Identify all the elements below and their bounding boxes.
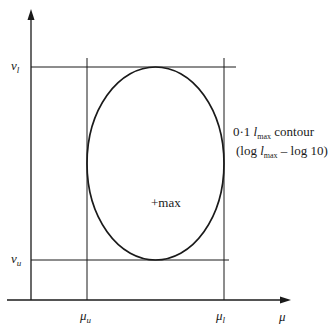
- contour-annotation-line2: (log lmax – log 10): [231, 142, 328, 161]
- max-point-label: +max: [151, 196, 181, 209]
- v-u-label: vu: [11, 252, 21, 265]
- y-axis-arrow-icon: [28, 9, 35, 20]
- mu-u-label: μu: [80, 309, 91, 322]
- v-l-label: vl: [11, 59, 19, 72]
- contour-annotation: 0·1 lmax contour (log lmax – log 10): [231, 123, 328, 161]
- x-axis-arrow-icon: [280, 297, 291, 304]
- contour-ellipse: [87, 67, 224, 260]
- x-axis-label: μ: [279, 310, 286, 323]
- diagram-canvas: [0, 0, 333, 326]
- mu-l-label: μl: [216, 309, 225, 322]
- contour-annotation-line1: 0·1 lmax contour: [231, 123, 328, 142]
